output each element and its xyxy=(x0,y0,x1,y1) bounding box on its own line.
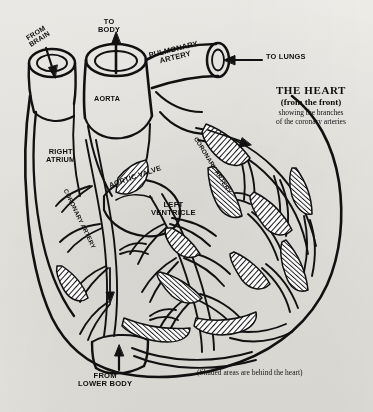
label-right-atrium: RIGHT ATRIUM xyxy=(46,148,75,163)
heart-diagram-figure: FROM BRAIN TO BODY PULMONARY ARTERY TO L… xyxy=(0,0,373,412)
footnote-shaded-areas: (Shaded areas are behind the heart) xyxy=(197,368,303,377)
arrow-from-brain xyxy=(46,48,57,78)
title-line-1: THE HEART xyxy=(255,84,367,96)
label-from-lower-body: FROM LOWER BODY xyxy=(78,372,132,387)
title-line-3: showing the branches xyxy=(255,108,367,117)
title-line-2: (from the front) xyxy=(255,97,367,107)
arrow-from-lower-body xyxy=(115,345,124,370)
label-to-lungs: TO LUNGS xyxy=(266,53,306,61)
label-to-body: TO BODY xyxy=(98,18,120,33)
label-left-ventricle: LEFT VENTRICLE xyxy=(151,201,196,216)
title-block: THE HEART (from the front) showing the b… xyxy=(255,84,367,126)
title-line-4: of the coronary arteries xyxy=(255,117,367,126)
label-aorta: AORTA xyxy=(94,95,120,102)
superior-vena-cava-vessel xyxy=(29,49,76,121)
arrow-to-body xyxy=(112,32,121,73)
